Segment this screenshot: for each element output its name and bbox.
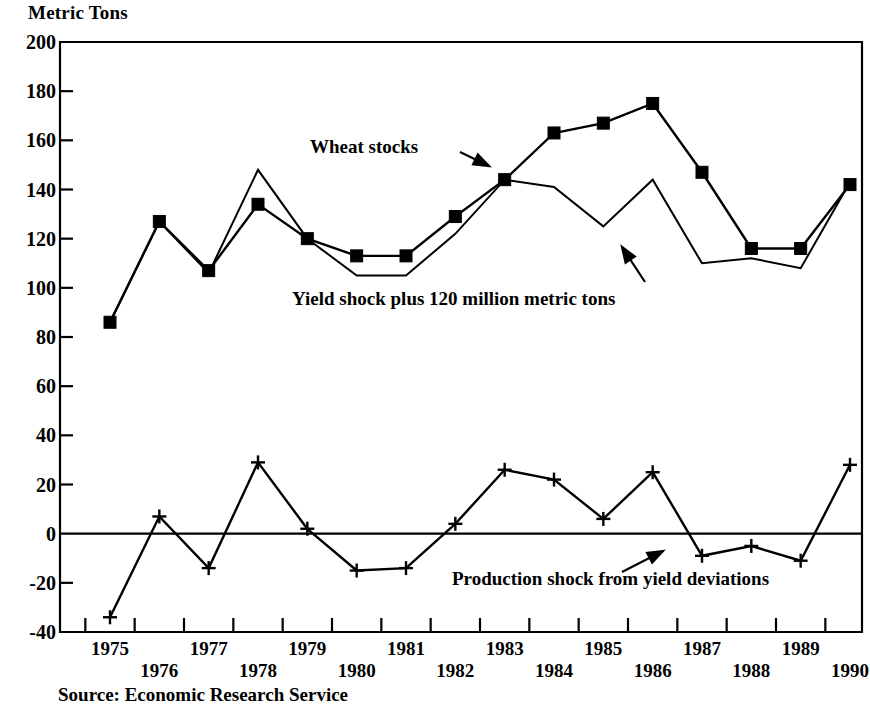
annotation-arrowhead-1 [622, 247, 635, 263]
series-marker [252, 198, 264, 210]
data-series [103, 97, 857, 624]
annotation-arrowhead-0 [473, 155, 489, 167]
axis-ticks [60, 91, 825, 632]
plot-border [60, 42, 862, 632]
series-marker [745, 243, 757, 255]
annotation-wheat-stocks: Wheat stocks [310, 136, 418, 158]
series-marker [647, 97, 659, 109]
annotation-yield-shock: Yield shock plus 120 million metric tons [292, 288, 615, 310]
annotation-arrowhead-2 [647, 551, 663, 563]
plot-frame [60, 42, 862, 632]
series-marker [449, 211, 461, 223]
series-marker [548, 127, 560, 139]
plot-canvas [0, 0, 870, 714]
series-line-2 [110, 462, 850, 617]
series-marker [400, 250, 412, 262]
annotation-production-shock: Production shock from yield deviations [452, 568, 769, 590]
series-marker [696, 166, 708, 178]
series-marker [351, 250, 363, 262]
chart-figure: Metric Tons 200180160140120100806040200-… [0, 0, 870, 714]
series-marker [597, 117, 609, 129]
source-note: Source: Economic Research Service [58, 684, 348, 706]
series-marker [795, 243, 807, 255]
annotation-arrows [460, 152, 663, 572]
